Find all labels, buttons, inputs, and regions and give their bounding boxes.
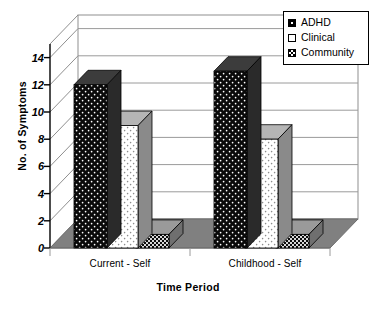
x-tick-current-self: Current - Self	[60, 258, 180, 269]
legend-label-clinical: Clinical	[301, 32, 335, 43]
y-tick-2: 2	[18, 216, 44, 226]
legend-swatch-adhd-icon	[288, 19, 296, 27]
legend-swatch-community-icon	[288, 49, 296, 57]
chart-legend: ADHD Clinical Community	[283, 11, 369, 65]
legend-label-community: Community	[301, 47, 354, 58]
y-tick-0: 0	[18, 243, 44, 253]
legend-swatch-clinical-icon	[288, 34, 296, 42]
y-tick-4: 4	[18, 189, 44, 199]
bar-community-childhood	[276, 220, 323, 248]
legend-item-community: Community	[288, 45, 365, 60]
bar-clinical-current	[105, 111, 152, 248]
y-tick-14: 14	[18, 53, 44, 63]
bar-chart: 0 2 4 6 8 10 12 14 No. of Symptoms Curre…	[0, 0, 376, 309]
legend-label-adhd: ADHD	[301, 17, 331, 28]
bar-community-current	[136, 220, 183, 248]
bar-clinical-childhood	[245, 125, 292, 248]
y-axis-title: No. of Symptoms	[16, 66, 28, 186]
x-tick-childhood-self: Childhood - Self	[200, 258, 330, 269]
legend-item-clinical: Clinical	[288, 30, 365, 45]
bar-adhd-childhood	[214, 57, 261, 248]
x-axis-title: Time Period	[0, 281, 376, 293]
legend-item-adhd: ADHD	[288, 15, 365, 30]
bar-adhd-current	[74, 70, 121, 248]
